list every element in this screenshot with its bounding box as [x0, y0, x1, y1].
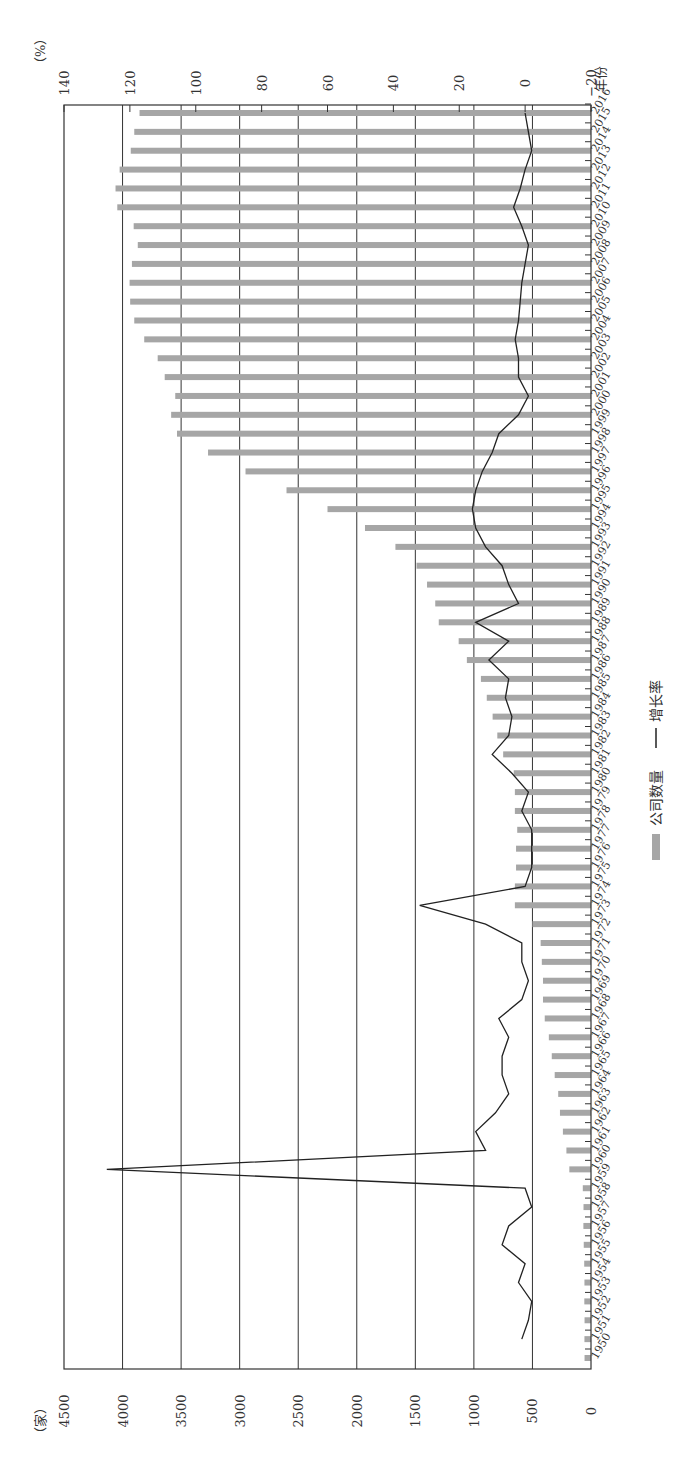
percent-tick-label: 140 [57, 71, 72, 96]
bar [543, 978, 591, 984]
bar [287, 487, 591, 493]
bar [132, 261, 591, 267]
bar [569, 1166, 591, 1172]
count-tick-label: 3000 [233, 1394, 248, 1427]
bar [144, 336, 591, 342]
bar [140, 110, 591, 116]
percent-unit-label: （%） [33, 32, 48, 70]
bar [165, 374, 591, 380]
bar [503, 751, 591, 757]
legend-bar-label: 公司数量 [648, 770, 664, 826]
bar [514, 770, 591, 776]
growth-rate-line [107, 113, 532, 1339]
bar [558, 1091, 591, 1097]
bar [552, 1053, 591, 1059]
percent-tick-label: 80 [255, 75, 270, 92]
bar [158, 355, 591, 361]
bar [517, 827, 591, 833]
bar [545, 1015, 591, 1021]
bar [120, 167, 591, 173]
bar [459, 638, 591, 644]
bar [131, 148, 591, 154]
legend: 公司数量 增长率 [648, 680, 664, 860]
count-tick-label: 0 [584, 1407, 599, 1415]
bar [134, 129, 591, 135]
count-tick-label: 3500 [174, 1394, 189, 1427]
percent-tick-label: 60 [321, 75, 336, 92]
bar [566, 1148, 591, 1154]
line-series-growth-rate [107, 113, 532, 1339]
bar [549, 1034, 591, 1040]
count-tick-label: 2000 [350, 1394, 365, 1427]
bar [439, 619, 591, 625]
bar [171, 412, 591, 418]
bar [208, 450, 591, 456]
bar [328, 506, 592, 512]
bar [541, 940, 591, 946]
bar [365, 525, 591, 531]
bar [493, 714, 591, 720]
bar [515, 902, 591, 908]
bar [515, 808, 591, 814]
rotated-bar-line-chart: 050010001500200025003000350040004500 −20… [0, 0, 682, 1479]
count-tick-label: 500 [525, 1399, 540, 1424]
bar [542, 959, 591, 965]
count-tick-label: 2500 [291, 1394, 306, 1427]
bar [497, 733, 591, 739]
bar [516, 846, 591, 852]
count-axis: 050010001500200025003000350040004500 [57, 1394, 599, 1427]
percent-tick-label: 40 [386, 75, 401, 92]
bar [130, 299, 591, 305]
bar [134, 318, 591, 324]
percent-tick-label: 20 [452, 75, 467, 92]
bar [481, 676, 591, 682]
percent-tick-label: 100 [189, 71, 204, 96]
count-tick-label: 1000 [467, 1394, 482, 1427]
bar [117, 204, 591, 210]
count-tick-label: 1500 [408, 1394, 423, 1427]
bar [532, 921, 591, 927]
bar [560, 1110, 591, 1116]
year-unit-label: 年份 [593, 66, 608, 92]
percent-tick-label: 120 [123, 71, 138, 96]
bar [138, 242, 591, 248]
bar [563, 1129, 591, 1135]
legend-bar-swatch [652, 834, 660, 860]
percent-tick-label: 0 [518, 79, 533, 87]
bar [417, 563, 591, 569]
bar [177, 431, 591, 437]
count-tick-label: 4500 [57, 1394, 72, 1427]
bar [555, 1072, 591, 1078]
bar [487, 695, 591, 701]
bar [543, 997, 591, 1003]
bar [467, 657, 591, 663]
count-unit-label: （家） [33, 1401, 48, 1440]
bar [395, 544, 591, 550]
count-tick-label: 4000 [116, 1394, 131, 1427]
bar [516, 865, 591, 871]
bar [246, 468, 591, 474]
legend-line-label: 增长率 [648, 680, 664, 722]
